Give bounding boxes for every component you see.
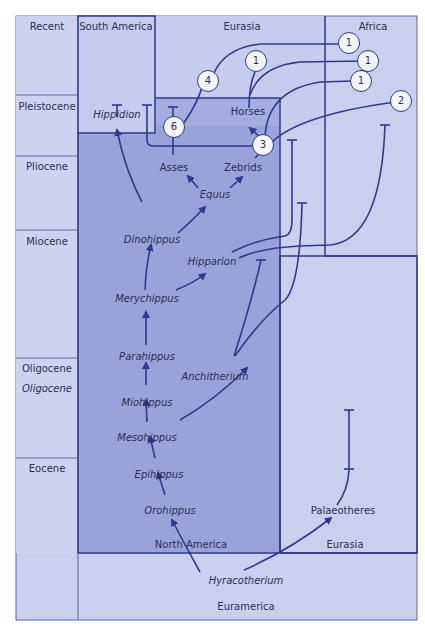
region-eurasia-bottom: Eurasia <box>326 539 363 551</box>
region-africa: Africa <box>359 21 388 33</box>
epoch-oligocene: Oligocene <box>22 363 72 375</box>
epoch-eocene: Eocene <box>29 463 66 475</box>
taxon-merychippus: Merychippus <box>115 293 179 305</box>
horse-evolution-diagram: Recent Pleistocene Pliocene Miocene Olig… <box>0 0 425 624</box>
taxon-dinohippus: Dinohippus <box>124 234 180 246</box>
taxon-palaeotheres: Palaeotheres <box>311 505 376 517</box>
marker-6: 6 <box>163 116 185 138</box>
taxon-horses: Horses <box>231 106 265 118</box>
epoch-miocene: Miocene <box>26 236 68 248</box>
taxon-hyracotherium: Hyracotherium <box>209 575 284 587</box>
diagram-graphics <box>0 0 425 624</box>
epoch-pliocene: Pliocene <box>26 161 68 173</box>
region-north-america: North America <box>155 539 227 551</box>
taxon-hippidion: Hippidion <box>93 109 140 121</box>
marker-2: 2 <box>390 90 412 112</box>
epoch-oligocene-italic: Oligocene <box>22 383 72 395</box>
region-south-america: South America <box>79 21 153 33</box>
taxon-anchitherium: Anchitherium <box>181 371 248 383</box>
taxon-equus: Equus <box>200 189 231 201</box>
taxon-mesohippus: Mesohippus <box>117 432 176 444</box>
marker-1-eurasia: 1 <box>245 50 267 72</box>
region-euramerica: Euramerica <box>217 601 274 613</box>
marker-1-africa-top: 1 <box>338 32 360 54</box>
taxon-hipparion: Hipparion <box>188 256 236 268</box>
epoch-pleistocene: Pleistocene <box>18 101 75 113</box>
taxon-miohippus: Miohippus <box>122 397 173 409</box>
marker-4: 4 <box>197 70 219 92</box>
taxon-zebrids: Zebrids <box>224 162 262 174</box>
taxon-orohippus: Orohippus <box>144 505 195 517</box>
marker-3: 3 <box>252 134 274 156</box>
epoch-recent: Recent <box>30 21 65 33</box>
marker-1-africa-low: 1 <box>350 70 372 92</box>
taxon-parahippus: Parahippus <box>119 351 175 363</box>
region-eurasia-top: Eurasia <box>223 21 260 33</box>
taxon-asses: Asses <box>160 162 189 174</box>
taxon-epihippus: Epihippus <box>135 469 184 481</box>
marker-1-africa-mid: 1 <box>357 50 379 72</box>
